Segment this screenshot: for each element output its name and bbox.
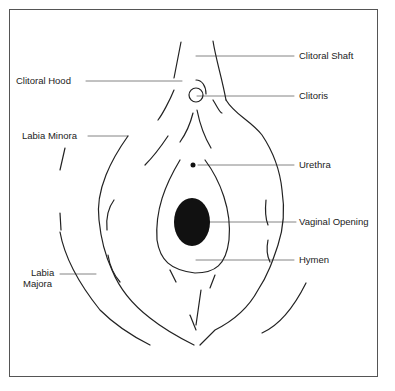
urethra-dot bbox=[191, 163, 196, 168]
label-labia-majora-line2: Majora bbox=[23, 278, 52, 289]
label-labia-minora: Labia Minora bbox=[22, 130, 77, 141]
label-clitoral-shaft: Clitoral Shaft bbox=[299, 50, 353, 61]
label-urethra: Urethra bbox=[299, 159, 331, 170]
label-vaginal-opening: Vaginal Opening bbox=[299, 216, 369, 227]
outer-left-top bbox=[158, 90, 174, 120]
label-clitoris: Clitoris bbox=[299, 90, 328, 101]
leader-lines bbox=[60, 56, 296, 274]
vaginal-opening-shape bbox=[174, 198, 210, 246]
label-clitoral-hood: Clitoral Hood bbox=[16, 75, 71, 86]
label-labia-majora-line1: Labia bbox=[31, 267, 54, 278]
clitoris-shape bbox=[189, 88, 203, 102]
label-hymen: Hymen bbox=[299, 254, 329, 265]
